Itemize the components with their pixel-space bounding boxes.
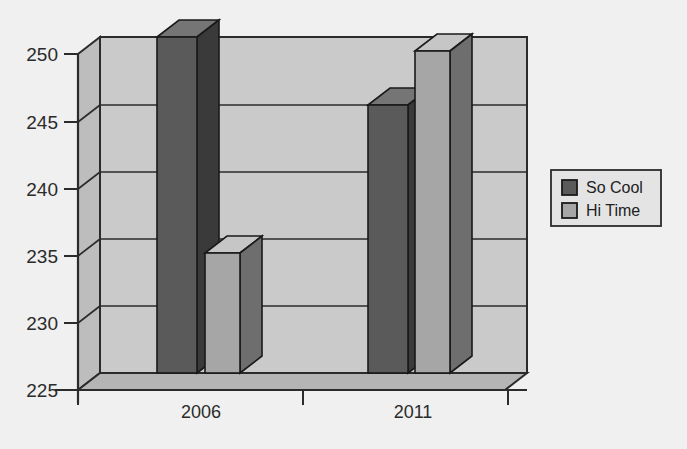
bar-front-face bbox=[368, 105, 408, 373]
legend-swatch-hi-time bbox=[562, 203, 577, 218]
bar-front-face bbox=[157, 37, 197, 373]
bar-hi-time-2011 bbox=[415, 34, 472, 373]
bar-side-face bbox=[240, 236, 262, 373]
y-tick-label-240: 240 bbox=[26, 179, 58, 200]
y-tick-label-230: 230 bbox=[26, 313, 58, 334]
y-tick-label-235: 235 bbox=[26, 246, 58, 267]
bar-chart-3d: 250 245 240 235 230 225 bbox=[0, 0, 687, 449]
plot-floor bbox=[78, 373, 527, 390]
bar-side-face bbox=[450, 34, 472, 373]
legend-item-hi-time[interactable]: Hi Time bbox=[562, 202, 640, 219]
legend-label-so-cool: So Cool bbox=[586, 179, 643, 196]
legend: So Cool Hi Time bbox=[551, 170, 661, 226]
x-tick-label-2006: 2006 bbox=[181, 402, 221, 422]
bar-hi-time-2006 bbox=[205, 236, 262, 373]
y-tick-label-250: 250 bbox=[26, 44, 58, 65]
chart-container: 250 245 240 235 230 225 bbox=[0, 0, 687, 449]
bar-front-face bbox=[415, 51, 450, 373]
legend-item-so-cool[interactable]: So Cool bbox=[562, 179, 643, 196]
plot-left-wall bbox=[78, 37, 100, 390]
y-tick-label-245: 245 bbox=[26, 112, 58, 133]
legend-label-hi-time: Hi Time bbox=[586, 202, 640, 219]
bar-front-face bbox=[205, 253, 240, 373]
y-tick-label-225: 225 bbox=[26, 380, 58, 401]
x-tick-label-2011: 2011 bbox=[394, 402, 433, 422]
legend-swatch-so-cool bbox=[562, 180, 577, 195]
